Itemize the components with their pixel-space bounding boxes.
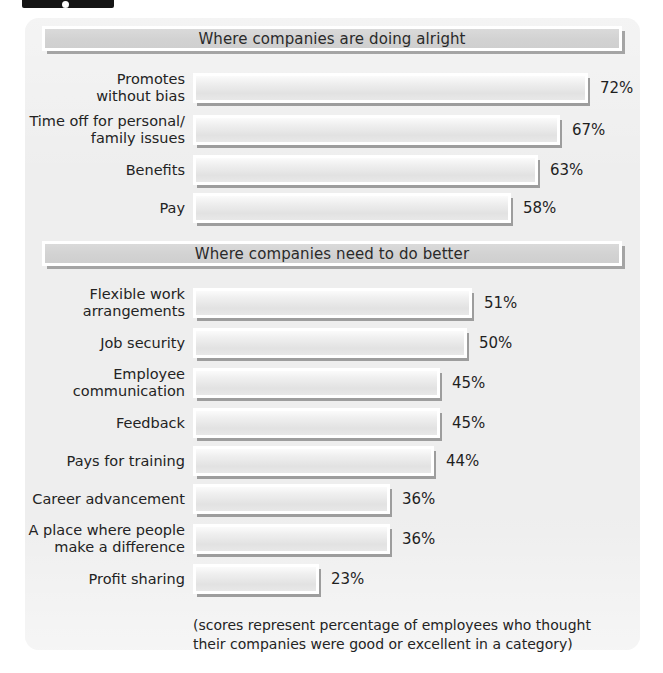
- bar-category-label: Employeecommunication: [25, 362, 185, 404]
- bar-category-label-line: without bias: [96, 88, 185, 105]
- bar-category-label: Time off for personal/family issues: [25, 109, 185, 151]
- bar-category-label-line: Promotes: [117, 71, 185, 88]
- bar-row: Flexible workarrangements51%: [25, 282, 640, 324]
- bar-value-label: 58%: [523, 193, 556, 223]
- bar-value-label: 45%: [452, 368, 485, 398]
- figure-number-tab: [22, 0, 114, 8]
- bar-fill: [193, 288, 472, 318]
- bar-fill: [193, 446, 434, 476]
- bar-category-label-line: Feedback: [116, 415, 185, 432]
- bar-row: A place where peoplemake a difference36%: [25, 518, 640, 560]
- bar-category-label: Job security: [25, 324, 185, 362]
- bar-track: [193, 155, 538, 185]
- bar-row: Pay58%: [25, 189, 640, 227]
- bar-value-label: 72%: [600, 73, 633, 103]
- bar-value-label: 36%: [402, 484, 435, 514]
- bar-row: Time off for personal/family issues67%: [25, 109, 640, 151]
- bar-row: Benefits63%: [25, 151, 640, 189]
- bar-category-label: Profit sharing: [25, 560, 185, 598]
- bar-value-label: 63%: [550, 155, 583, 185]
- section-header-label: Where companies need to do better: [195, 245, 469, 263]
- bar-fill: [193, 155, 538, 185]
- bar-fill: [193, 193, 511, 223]
- bar-value-label: 45%: [452, 408, 485, 438]
- bar-fill: [193, 484, 390, 514]
- bar-category-label-line: make a difference: [54, 539, 185, 556]
- bar-category-label-line: communication: [73, 383, 185, 400]
- bar-category-label: Flexible workarrangements: [25, 282, 185, 324]
- bar-value-label: 50%: [479, 328, 512, 358]
- bar-category-label-line: Pays for training: [67, 453, 185, 470]
- bar-category-label-line: Time off for personal/: [29, 113, 185, 130]
- chart-body: Where companies are doing alrightPromote…: [25, 18, 640, 650]
- section-header-1: Where companies are doing alright: [42, 26, 622, 51]
- bar-category-label: Career advancement: [25, 480, 185, 518]
- bar-category-label-line: Pay: [159, 200, 185, 217]
- bar-category-label-line: Benefits: [126, 162, 185, 179]
- bar-track: [193, 524, 390, 554]
- figure-tab-dot: [62, 1, 69, 8]
- bar-row: Pays for training44%: [25, 442, 640, 480]
- bar-value-label: 23%: [331, 564, 364, 594]
- bar-row: Profit sharing23%: [25, 560, 640, 598]
- bar-track: [193, 564, 319, 594]
- footnote-line: (scores represent percentage of employee…: [193, 616, 623, 635]
- bar-category-label-line: Employee: [113, 366, 185, 383]
- bar-track: [193, 193, 511, 223]
- bar-category-label: Feedback: [25, 404, 185, 442]
- bar-value-label: 67%: [572, 115, 605, 145]
- footnote: (scores represent percentage of employee…: [193, 616, 623, 654]
- bar-value-label: 36%: [402, 524, 435, 554]
- bar-category-label: Benefits: [25, 151, 185, 189]
- bar-track: [193, 484, 390, 514]
- bar-category-label-line: Flexible work: [90, 286, 186, 303]
- bar-fill: [193, 73, 588, 103]
- bar-category-label-line: A place where people: [29, 522, 185, 539]
- bar-track: [193, 368, 440, 398]
- bar-track: [193, 328, 467, 358]
- bar-category-label-line: family issues: [91, 130, 185, 147]
- bar-track: [193, 288, 472, 318]
- bar-fill: [193, 115, 560, 145]
- bar-row: Career advancement36%: [25, 480, 640, 518]
- bar-fill: [193, 328, 467, 358]
- chart-panel: Where companies are doing alrightPromote…: [25, 18, 640, 650]
- bar-value-label: 44%: [446, 446, 479, 476]
- bar-track: [193, 408, 440, 438]
- bar-category-label-line: Career advancement: [32, 491, 185, 508]
- bar-row: Feedback45%: [25, 404, 640, 442]
- bar-fill: [193, 408, 440, 438]
- bar-category-label-line: Profit sharing: [89, 571, 185, 588]
- bar-fill: [193, 524, 390, 554]
- bar-track: [193, 73, 588, 103]
- bar-value-label: 51%: [484, 288, 517, 318]
- bar-track: [193, 446, 434, 476]
- bar-category-label: Pays for training: [25, 442, 185, 480]
- bar-row: Employeecommunication45%: [25, 362, 640, 404]
- bar-category-label: Pay: [25, 189, 185, 227]
- bar-category-label-line: arrangements: [83, 303, 185, 320]
- bar-fill: [193, 368, 440, 398]
- bar-category-label-line: Job security: [100, 335, 185, 352]
- bar-track: [193, 115, 560, 145]
- footnote-line: their companies were good or excellent i…: [193, 635, 623, 654]
- bar-category-label: A place where peoplemake a difference: [25, 518, 185, 560]
- section-header-2: Where companies need to do better: [42, 241, 622, 266]
- section-header-label: Where companies are doing alright: [198, 30, 465, 48]
- bar-fill: [193, 564, 319, 594]
- bar-row: Promoteswithout bias72%: [25, 67, 640, 109]
- bar-category-label: Promoteswithout bias: [25, 67, 185, 109]
- bar-row: Job security50%: [25, 324, 640, 362]
